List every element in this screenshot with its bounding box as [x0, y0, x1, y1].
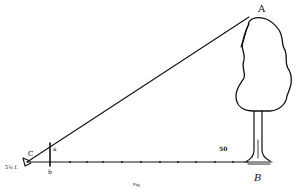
tree-trunk-right [262, 111, 270, 161]
label-C: C [28, 150, 33, 158]
tree-height-diagram: A B C a b 5½ f. 50 Fig. [0, 0, 296, 189]
tree-roots [245, 162, 272, 164]
figure-caption: Fig. [133, 182, 141, 187]
sight-line [27, 17, 249, 162]
label-distance: 50 [219, 145, 227, 152]
label-a: a [53, 145, 57, 152]
label-B: B [253, 172, 261, 183]
label-A: A [257, 3, 266, 14]
label-b: b [48, 168, 52, 175]
tree-crown [236, 18, 291, 111]
tree-trunk-left [247, 111, 254, 161]
label-eye-height: 5½ f. [5, 164, 18, 170]
